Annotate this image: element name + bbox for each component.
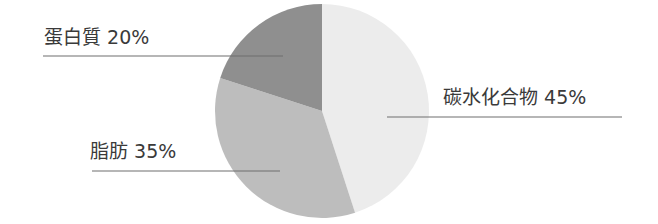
label-protein: 蛋白質 20% bbox=[44, 26, 149, 48]
pie-chart: 蛋白質 20% 脂肪 35% 碳水化合物 45% bbox=[0, 0, 658, 224]
pie-slices bbox=[215, 4, 429, 218]
label-carbs: 碳水化合物 45% bbox=[443, 86, 586, 108]
label-fat: 脂肪 35% bbox=[90, 140, 176, 162]
